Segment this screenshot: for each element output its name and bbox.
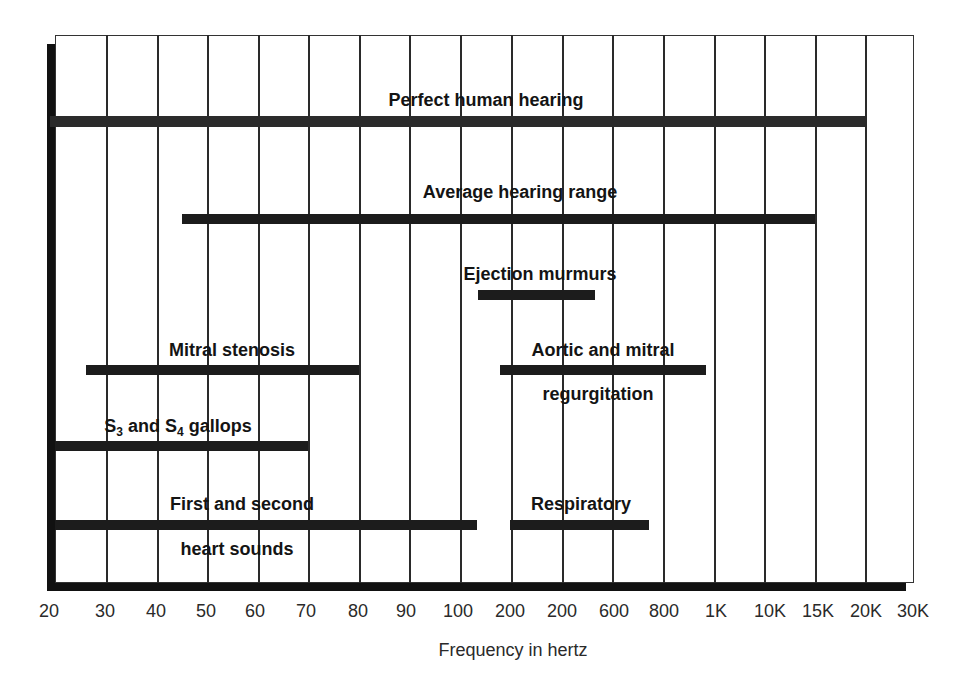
label-heart-sounds-line1: First and second: [170, 494, 314, 515]
label-text: S: [104, 416, 116, 436]
x-tick: 100: [443, 601, 473, 622]
x-tick: 200: [547, 601, 577, 622]
label-heart-sounds-line2: heart sounds: [180, 539, 293, 560]
label-aortic-line2: regurgitation: [543, 384, 654, 405]
x-tick: 15K: [802, 601, 834, 622]
bar-mitral-stenosis: [86, 365, 359, 375]
bar-respiratory: [510, 520, 649, 530]
label-text: and S: [123, 416, 177, 436]
x-tick: 30K: [897, 601, 929, 622]
x-tick: 600: [599, 601, 629, 622]
label-perfect-hearing: Perfect human hearing: [388, 90, 583, 111]
x-tick: 70: [296, 601, 316, 622]
frequency-range-chart: Perfect human hearing Average hearing ra…: [0, 0, 966, 686]
x-axis-label: Frequency in hertz: [438, 640, 587, 661]
label-ejection-murmurs: Ejection murmurs: [463, 264, 616, 285]
label-text: gallops: [184, 416, 252, 436]
x-tick: 1K: [705, 601, 727, 622]
bar-aortic-mitral-regurgitation: [500, 365, 706, 375]
x-tick: 800: [649, 601, 679, 622]
x-tick: 40: [146, 601, 166, 622]
x-tick: 10K: [754, 601, 786, 622]
bar-perfect-hearing: [50, 116, 865, 127]
bar-s3-s4-gallops: [55, 441, 308, 451]
x-tick: 80: [348, 601, 368, 622]
x-tick: 20: [39, 601, 59, 622]
bar-heart-sounds: [55, 520, 477, 530]
x-tick: 30: [95, 601, 115, 622]
bar-ejection-murmurs: [478, 290, 595, 300]
label-respiratory: Respiratory: [531, 494, 631, 515]
label-mitral-stenosis: Mitral stenosis: [169, 340, 295, 361]
x-tick: 90: [396, 601, 416, 622]
x-tick: 20K: [850, 601, 882, 622]
bar-average-hearing: [182, 214, 815, 224]
label-s3-s4-gallops: S3 and S4 gallops: [104, 416, 251, 439]
label-aortic-line1: Aortic and mitral: [531, 340, 674, 361]
gridline: [865, 35, 867, 583]
x-tick: 60: [245, 601, 265, 622]
label-average-hearing: Average hearing range: [423, 182, 617, 203]
label-subscript: 3: [116, 425, 123, 439]
x-tick: 200: [495, 601, 525, 622]
x-tick: 50: [196, 601, 216, 622]
x-axis-bar: [47, 583, 906, 591]
